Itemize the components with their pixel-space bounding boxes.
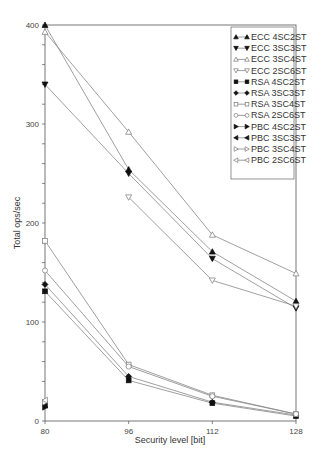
y-tick-label: 400 <box>26 21 40 30</box>
y-tick-label: 0 <box>35 417 40 426</box>
legend-label: PBC 2SC6ST <box>251 155 307 165</box>
circle-marker-icon <box>234 113 238 117</box>
legend-label: RSA 3SC3ST <box>251 88 306 98</box>
circle-marker-icon <box>293 412 298 417</box>
legend-label: RSA 4SC2ST <box>251 77 306 87</box>
y-axis-title: Total ops/sec <box>12 196 22 249</box>
x-tick-label: 112 <box>206 427 219 436</box>
square-marker-icon <box>234 80 238 84</box>
triangle-down-marker-icon <box>209 256 215 261</box>
legend-label: RSA 2SC6ST <box>251 110 306 120</box>
series-line <box>45 241 296 414</box>
y-tick-label: 100 <box>26 318 40 327</box>
legend-label: ECC 2SC6ST <box>251 66 307 76</box>
line-chart: 01002003004008096112128 ECC 4SC2STECC 3S… <box>0 0 317 464</box>
legend-label: PBC 4SC2ST <box>251 122 307 132</box>
x-axis-title: Security level [bit] <box>135 435 206 445</box>
x-tick-label: 96 <box>124 427 133 436</box>
legend-label: ECC 3SC4ST <box>251 54 307 64</box>
x-tick-label: 128 <box>289 427 303 436</box>
legend-label: ECC 4SC2ST <box>251 32 307 42</box>
legend-label: ECC 3SC3ST <box>251 43 307 53</box>
square-marker-icon <box>245 102 249 106</box>
x-tick-label: 80 <box>41 427 50 436</box>
series-line <box>45 291 296 416</box>
square-marker-icon <box>43 289 48 294</box>
y-tick-label: 300 <box>26 120 40 129</box>
circle-marker-icon <box>42 268 47 273</box>
circle-marker-icon <box>245 113 249 117</box>
triangle-up-marker-icon <box>293 298 299 303</box>
y-tick-label: 200 <box>26 219 40 228</box>
series-line <box>45 271 296 415</box>
square-marker-icon <box>234 102 238 106</box>
circle-marker-icon <box>210 394 215 399</box>
circle-marker-icon <box>126 364 131 369</box>
triangle-up-marker-icon <box>293 270 299 275</box>
legend-label: RSA 3SC4ST <box>251 99 306 109</box>
square-marker-icon <box>43 238 48 243</box>
triangle-up-marker-icon <box>42 29 48 34</box>
legend-label: PBC 3SC3ST <box>251 133 307 143</box>
legend-label: PBC 3SC4ST <box>251 144 307 154</box>
legend: ECC 4SC2STECC 3SC3STECC 3SC4STECC 2SC6ST… <box>231 27 307 179</box>
series-line <box>45 284 296 415</box>
square-marker-icon <box>245 80 249 84</box>
